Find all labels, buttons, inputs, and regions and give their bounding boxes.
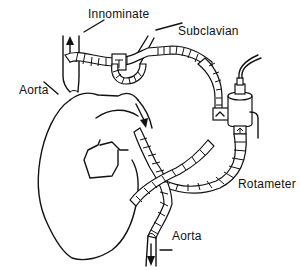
arrow-up-icon [66,36,74,45]
arrow-down-icon [147,256,155,266]
heart-bypass-illustration [0,0,300,270]
arrow-down-icon [140,118,148,128]
diagram-canvas: Innominate Subclavian Aorta Rotameter Ao… [0,0,300,270]
bypass-tubing-return [162,134,246,193]
descending-aorta-vessel [146,234,156,266]
label-subclavian: Subclavian [178,25,239,37]
bypass-loop [112,64,146,84]
label-aorta-upper: Aorta [19,84,49,96]
label-aorta-lower: Aorta [172,230,202,242]
label-rotameter: Rotameter [238,178,296,190]
descending-aorta-tubing [130,104,214,238]
heart-outline [38,93,152,259]
innominate-artery [63,36,79,92]
bypass-tubing-right [198,58,229,120]
bypass-tubing-top [65,46,212,70]
rotameter-device [228,55,261,134]
label-innominate: Innominate [88,8,149,20]
